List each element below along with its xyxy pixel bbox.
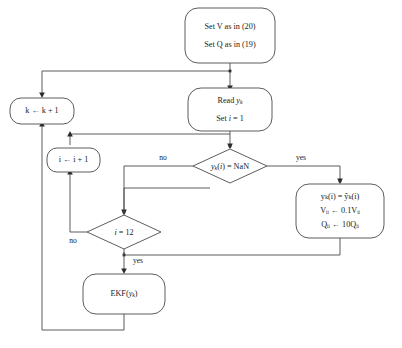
junction-read-output: [229, 145, 232, 148]
connector-nan-yes-to-substitute: [267, 166, 340, 181]
node-read-line2-prefix: Set: [216, 114, 229, 123]
node-init-line2: Set Q as in (19): [204, 40, 256, 49]
node-ekf-prefix: EKF(: [110, 289, 128, 298]
edge-label-nan-yes: yes: [296, 153, 306, 162]
connector-count-no-to-i-increment: [70, 172, 87, 232]
node-read-line2-suffix: = 1: [231, 114, 244, 123]
connector-nan-no-to-count-test: [124, 166, 193, 212]
node-i-increment-label: i ← i + 1: [59, 155, 89, 164]
connector-i-increment-to-nan-test: [70, 134, 230, 145]
node-count-test-label: i = 12: [114, 227, 133, 236]
flowchart-diagram: Set V as in (20) Set Q as in (19) Read y…: [0, 0, 402, 348]
arrowhead-to-k-increment: [39, 92, 45, 98]
node-init-line1: Set V as in (20): [204, 22, 255, 31]
junction-trunk-k-branch: [229, 70, 232, 73]
edge-label-count-no: no: [69, 236, 77, 245]
arrowhead-to-ekf: [121, 268, 127, 274]
edge-label-nan-no: no: [159, 153, 167, 162]
node-substitute-line1: yₖ(i) = ŷₖ(i): [321, 192, 360, 201]
node-read-shape: [188, 88, 272, 131]
node-read-line2: Set i = 1: [216, 114, 244, 123]
node-substitute-line2: Vᵢᵢ ← 0.1Vᵢᵢ: [320, 206, 360, 215]
node-read-line1-sub: k: [240, 99, 243, 105]
node-count-test-suffix: = 12: [117, 227, 134, 236]
node-ekf-suffix: ): [135, 289, 138, 298]
flowchart-canvas: Set V as in (20) Set Q as in (19) Read y…: [0, 0, 402, 348]
edge-label-count-yes: yes: [133, 256, 143, 265]
node-read-line1: Read yk: [217, 96, 243, 105]
node-k-increment-label: k ← k + 1: [25, 106, 58, 115]
node-read-line1-prefix: Read: [217, 96, 236, 105]
connector-substitute-to-count-test: [124, 238, 340, 255]
junction-substitute-input: [339, 180, 342, 183]
node-substitute-line3: Qᵢᵢ ← 10Qᵢᵢ: [321, 220, 359, 229]
node-init-shape: [185, 8, 275, 63]
node-nan-test-suffix: ) = NaN: [222, 161, 249, 170]
